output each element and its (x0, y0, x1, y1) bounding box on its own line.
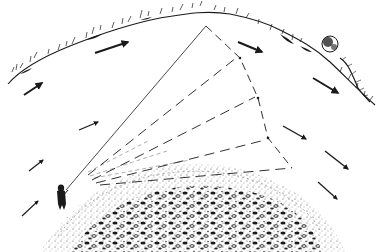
arrow-icon (325, 151, 348, 169)
arrow-icon (238, 42, 262, 52)
fishing-illustration (0, 0, 384, 252)
arrow-icon (24, 83, 42, 95)
arrow-icon (79, 122, 98, 130)
arrow-icon (29, 160, 43, 171)
arrow-icon (95, 42, 128, 53)
arrow-icon (283, 126, 306, 139)
arrow-icon (313, 78, 338, 93)
arrow-icon (318, 182, 337, 199)
bush-icon (322, 36, 370, 102)
drift-line (88, 58, 236, 175)
near-bank (40, 164, 345, 252)
grass-bank-icon (8, 12, 375, 105)
arrow-icon (22, 201, 38, 216)
angler-icon (57, 185, 68, 211)
far-bank (8, 1, 375, 105)
